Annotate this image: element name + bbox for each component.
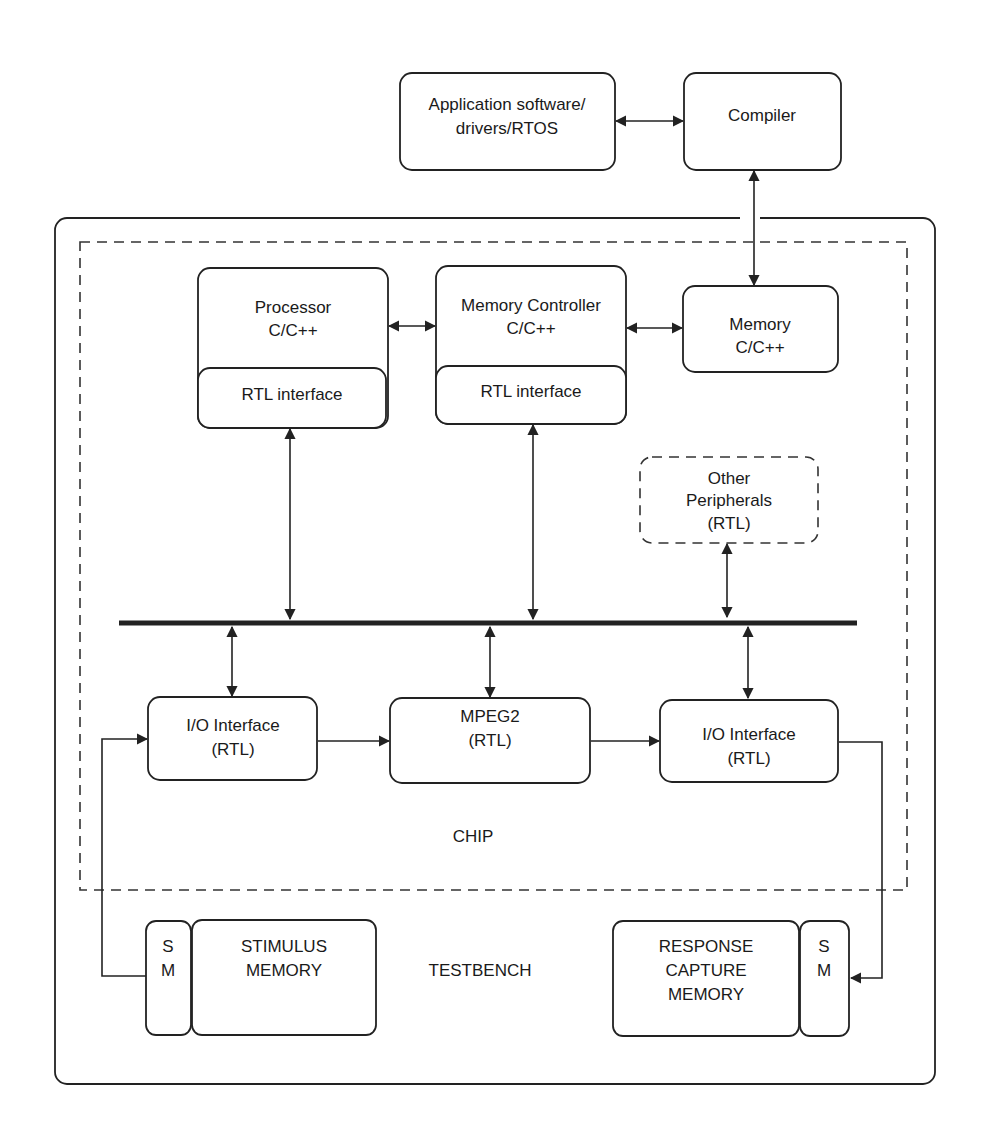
svg-text:C/C++: C/C++	[735, 338, 784, 357]
response-sm-box[interactable]: S M	[800, 921, 849, 1036]
block-diagram: Application software/ drivers/RTOS Compi…	[0, 0, 981, 1139]
svg-text:(RTL): (RTL)	[727, 749, 770, 768]
arrow-stimulus-io-in	[102, 739, 147, 976]
memory-box[interactable]: Memory C/C++	[683, 286, 838, 372]
app-software-box[interactable]: Application software/ drivers/RTOS	[400, 73, 615, 170]
svg-text:C/C++: C/C++	[268, 321, 317, 340]
svg-text:drivers/RTOS: drivers/RTOS	[456, 119, 558, 138]
chip-label: CHIP	[453, 827, 494, 846]
svg-text:RTL interface: RTL interface	[480, 382, 581, 401]
svg-text:RESPONSE: RESPONSE	[659, 937, 753, 956]
svg-text:M: M	[817, 961, 831, 980]
svg-text:Application software/: Application software/	[429, 95, 586, 114]
stimulus-memory-box[interactable]: STIMULUS MEMORY	[192, 920, 376, 1035]
testbench-label: TESTBENCH	[429, 961, 532, 980]
svg-text:STIMULUS: STIMULUS	[241, 937, 327, 956]
svg-text:(RTL): (RTL)	[211, 740, 254, 759]
svg-text:Other: Other	[708, 469, 751, 488]
io-interface-out-box[interactable]: I/O Interface (RTL)	[660, 700, 838, 782]
svg-text:I/O Interface: I/O Interface	[702, 725, 796, 744]
response-memory-box[interactable]: RESPONSE CAPTURE MEMORY	[613, 921, 799, 1036]
mpeg2-box[interactable]: MPEG2 (RTL)	[390, 698, 590, 783]
svg-text:Peripherals: Peripherals	[686, 491, 772, 510]
processor-box[interactable]: Processor C/C++ RTL interface	[198, 268, 388, 428]
stimulus-sm-box[interactable]: S M	[146, 921, 191, 1035]
svg-text:MEMORY: MEMORY	[668, 985, 744, 1004]
svg-text:Memory: Memory	[729, 315, 791, 334]
svg-text:Compiler: Compiler	[728, 106, 796, 125]
svg-text:CAPTURE: CAPTURE	[665, 961, 746, 980]
memory-controller-box[interactable]: Memory Controller C/C++ RTL interface	[436, 266, 626, 424]
svg-text:MEMORY: MEMORY	[246, 961, 322, 980]
other-peripherals-box[interactable]: Other Peripherals (RTL)	[640, 457, 818, 543]
svg-text:Memory Controller: Memory Controller	[461, 296, 601, 315]
compiler-box[interactable]: Compiler	[684, 73, 841, 170]
svg-text:Processor: Processor	[255, 298, 332, 317]
svg-text:S: S	[818, 937, 829, 956]
svg-text:M: M	[161, 961, 175, 980]
svg-text:S: S	[162, 937, 173, 956]
io-interface-in-box[interactable]: I/O Interface (RTL)	[148, 697, 317, 780]
svg-text:(RTL): (RTL)	[468, 731, 511, 750]
svg-text:I/O Interface: I/O Interface	[186, 716, 280, 735]
svg-text:RTL interface: RTL interface	[241, 385, 342, 404]
svg-text:(RTL): (RTL)	[707, 514, 750, 533]
svg-text:MPEG2: MPEG2	[460, 707, 520, 726]
svg-text:C/C++: C/C++	[506, 319, 555, 338]
